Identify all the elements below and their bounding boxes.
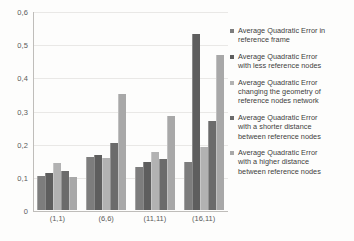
y-axis-tick-label: 0,5 <box>4 41 28 50</box>
bar-group <box>135 31 175 210</box>
legend-label-line: Average Quadratic Error in <box>238 26 325 35</box>
y-axis-tick-label: 0,4 <box>4 74 28 83</box>
bar <box>216 55 224 210</box>
x-axis-tick-label: (1,1) <box>50 214 65 223</box>
y-axis-tick-label: 0,6 <box>4 8 28 17</box>
legend-label-line: reference nodes network <box>238 96 319 105</box>
legend-label-line: Average Quadratic Error <box>238 113 317 122</box>
x-axis-tick-label: (6,6) <box>98 214 113 223</box>
legend-label: Average Quadratic Errorchanging the geom… <box>238 78 321 106</box>
legend-label-line: changing the geometry of <box>238 87 321 96</box>
bar <box>37 176 45 210</box>
legend-swatch-icon <box>230 29 234 33</box>
bar <box>135 167 143 210</box>
legend-label-line: between reference nodes <box>238 167 321 176</box>
x-axis-tick-label: (11,11) <box>144 214 167 223</box>
bars-layer <box>33 0 228 241</box>
legend-label-line: with less reference nodes <box>238 61 321 70</box>
legend-label-line: Average Quadratic Error <box>238 78 317 87</box>
legend-label: Average Quadratic Error inreference fram… <box>238 26 325 45</box>
bar-chart: 00,10,20,30,40,50,6 (1,1)(6,6)(11,11)(16… <box>0 0 354 241</box>
legend-label: Average Quadratic Errorwith a shorter di… <box>238 113 321 141</box>
bar <box>184 162 192 210</box>
legend-label-line: reference frame <box>238 35 290 44</box>
bar <box>167 116 175 210</box>
legend-item[interactable]: Average Quadratic Error inreference fram… <box>230 26 352 45</box>
bar <box>143 162 151 210</box>
legend-label-line: between reference nodes <box>238 132 321 141</box>
legend-label: Average Quadratic Errorwith a higher dis… <box>238 148 321 176</box>
legend-item[interactable]: Average Quadratic Errorwith less referen… <box>230 52 352 71</box>
bar <box>151 152 159 210</box>
bar <box>61 171 69 210</box>
y-axis-tick-label: 0 <box>4 207 28 216</box>
legend-swatch-icon <box>230 81 234 85</box>
bar <box>110 143 118 210</box>
bar <box>86 157 94 210</box>
bar <box>45 173 53 210</box>
legend-label: Average Quadratic Errorwith less referen… <box>238 52 321 71</box>
legend-swatch-icon <box>230 116 234 120</box>
bar <box>200 147 208 210</box>
bar <box>192 34 200 210</box>
legend-item[interactable]: Average Quadratic Errorwith a higher dis… <box>230 148 352 176</box>
y-axis-tick-label: 0,2 <box>4 140 28 149</box>
chart-legend: Average Quadratic Error inreference fram… <box>230 26 352 183</box>
bar-group <box>37 31 77 210</box>
legend-label-line: with a higher distance <box>238 157 309 166</box>
bar <box>159 159 167 210</box>
bar-group <box>184 31 224 210</box>
bar <box>94 155 102 210</box>
bar-group <box>86 31 126 210</box>
plot-area: 00,10,20,30,40,50,6 (1,1)(6,6)(11,11)(16… <box>0 0 228 241</box>
legend-item[interactable]: Average Quadratic Errorwith a shorter di… <box>230 113 352 141</box>
bar <box>53 163 61 210</box>
x-axis-tick-label: (16,11) <box>192 214 215 223</box>
y-axis-tick-label: 0,3 <box>4 107 28 116</box>
legend-swatch-icon <box>230 55 234 59</box>
bar <box>69 177 77 210</box>
x-axis: (1,1)(6,6)(11,11)(16,11) <box>33 212 228 232</box>
legend-swatch-icon <box>230 151 234 155</box>
y-axis-tick-label: 0,1 <box>4 173 28 182</box>
bar <box>208 121 216 210</box>
legend-label-line: Average Quadratic Error <box>238 52 317 61</box>
y-axis: 00,10,20,30,40,50,6 <box>4 0 28 241</box>
legend-label-line: with a shorter distance <box>238 122 311 131</box>
bar <box>118 94 126 210</box>
legend-label-line: Average Quadratic Error <box>238 148 317 157</box>
bar <box>102 158 110 210</box>
legend-item[interactable]: Average Quadratic Errorchanging the geom… <box>230 78 352 106</box>
